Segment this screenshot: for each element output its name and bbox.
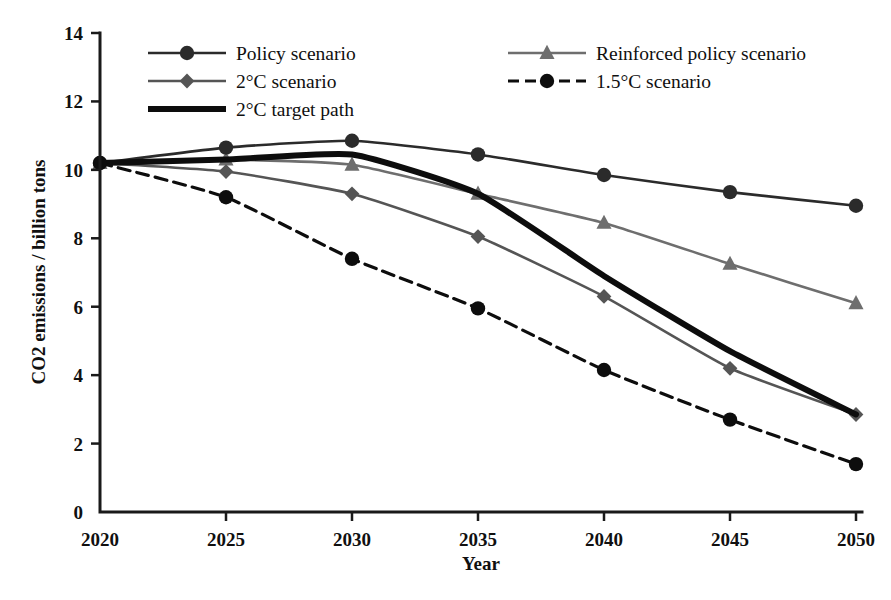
x-tick-label: 2040: [585, 529, 623, 550]
x-tick-label: 2025: [207, 529, 245, 550]
data-point-1-5-c-scenario: [345, 252, 359, 266]
y-tick-label: 8: [74, 228, 84, 249]
data-point-1-5-c-scenario: [219, 190, 233, 204]
data-point-policy-scenario: [849, 199, 863, 213]
legend-label-two-degree-target-path: 2°C target path: [236, 99, 354, 120]
x-tick-label: 2030: [333, 529, 371, 550]
y-tick-label: 10: [64, 160, 83, 181]
legend-marker-one-point-five-degree-scenario: [540, 74, 554, 88]
data-point-policy-scenario: [219, 140, 233, 154]
data-point-policy-scenario: [345, 134, 359, 148]
x-tick-label: 2045: [711, 529, 749, 550]
chart-background: [0, 0, 891, 600]
y-axis-title: CO2 emissions / billion tons: [28, 160, 49, 385]
y-tick-label: 0: [74, 502, 84, 523]
emissions-line-chart: 02468101214 2020202520302035204020452050…: [0, 0, 891, 600]
data-point-1-5-c-scenario: [723, 412, 737, 426]
x-tick-label: 2035: [459, 529, 497, 550]
legend-label-policy-scenario: Policy scenario: [236, 43, 356, 64]
data-point-policy-scenario: [471, 147, 485, 161]
x-tick-label: 2020: [81, 529, 119, 550]
y-tick-label: 12: [64, 91, 83, 112]
chart-figure: 02468101214 2020202520302035204020452050…: [0, 0, 891, 600]
y-tick-label: 4: [74, 365, 84, 386]
data-point-policy-scenario: [597, 168, 611, 182]
data-point-1-5-c-scenario: [849, 457, 863, 471]
legend-marker-policy-scenario: [180, 46, 194, 60]
legend-label-one-point-five-degree-scenario: 1.5°C scenario: [596, 71, 711, 92]
y-tick-label: 6: [74, 297, 84, 318]
y-tick-label: 2: [74, 434, 84, 455]
data-point-1-5-c-scenario: [597, 363, 611, 377]
x-tick-label: 2050: [837, 529, 875, 550]
data-point-policy-scenario: [723, 185, 737, 199]
x-axis-title: Year: [462, 553, 501, 574]
legend-label-two-degree-scenario: 2°C scenario: [236, 71, 336, 92]
data-point-1-5-c-scenario: [471, 301, 485, 315]
y-tick-label: 14: [64, 23, 84, 44]
legend-label-reinforced-policy-scenario: Reinforced policy scenario: [596, 43, 806, 64]
